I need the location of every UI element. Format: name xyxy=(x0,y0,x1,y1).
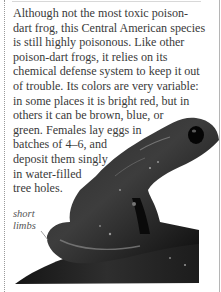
annotation-pointer xyxy=(41,231,48,240)
annotation-short-limbs: short limbs xyxy=(13,208,36,232)
body-line: dart frog, this Central American species xyxy=(13,21,213,36)
body-line: tree holes. xyxy=(13,181,213,196)
body-line: Although not the most toxic poison- xyxy=(13,6,213,21)
body-line: in some places it is bright red, but in xyxy=(13,94,213,109)
body-line: in water-filled xyxy=(13,167,213,182)
body-line: deposit them singly xyxy=(13,152,213,167)
body-line: poison-dart frogs, it relies on its xyxy=(13,50,213,65)
body-line: chemical defense system to keep it out xyxy=(13,64,213,79)
body-line: of trouble. Its colors are very variable… xyxy=(13,79,213,94)
body-line: is still highly poisonous. Like other xyxy=(13,35,213,50)
annotation-line: short xyxy=(13,208,36,220)
body-line: others it can be brown, blue, or xyxy=(13,108,213,123)
body-line: batches of 4–6, and xyxy=(13,137,213,152)
article-body: Although not the most toxic poison- dart… xyxy=(13,6,213,196)
body-line: green. Females lay eggs in xyxy=(13,123,213,138)
annotation-line: limbs xyxy=(13,220,36,232)
